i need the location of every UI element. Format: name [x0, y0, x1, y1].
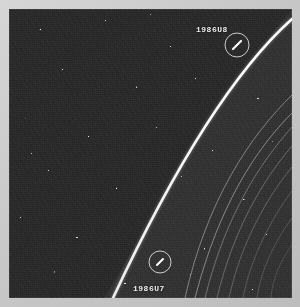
- moon-marker-1986u8: [225, 33, 249, 57]
- moon-label-1986u7: 1986U7: [133, 284, 165, 293]
- ring-system-overlay: [9, 9, 292, 298]
- photo-frame: 1986U8 1986U7: [0, 0, 300, 307]
- moon-streak-1986u8: [233, 41, 241, 49]
- astronomical-image-plate: 1986U8 1986U7: [9, 9, 292, 298]
- moon-label-1986u8: 1986U8: [196, 25, 228, 34]
